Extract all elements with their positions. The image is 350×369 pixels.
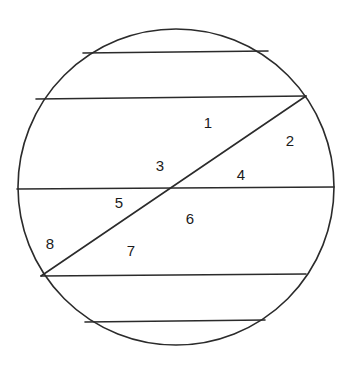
region-label-1: 1: [204, 114, 212, 131]
region-label-7: 7: [127, 242, 135, 259]
region-label-5: 5: [115, 194, 123, 211]
region-label-6: 6: [186, 210, 194, 227]
region-label-2: 2: [286, 132, 294, 149]
region-label-8: 8: [46, 235, 54, 252]
region-label-3: 3: [156, 157, 164, 174]
region-label-4: 4: [237, 166, 245, 183]
figure-container: 12345678: [0, 0, 350, 369]
circle-chord-diagram: 12345678: [0, 0, 350, 369]
